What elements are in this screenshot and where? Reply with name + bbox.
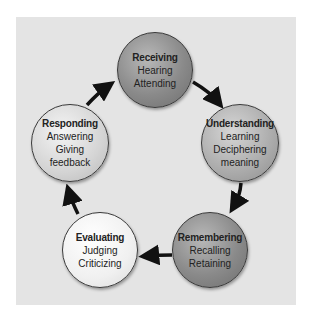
node-line: Attending (134, 77, 176, 90)
node-remembering: Remembering Recalling Retaining (172, 212, 248, 288)
node-title: Understanding (206, 117, 274, 130)
arrow-responding-to-receiving (87, 86, 108, 105)
node-line: Judging (82, 244, 117, 257)
node-receiving: Receiving Hearing Attending (117, 32, 193, 108)
node-line: Criticizing (78, 257, 121, 270)
node-title: Evaluating (76, 231, 125, 244)
node-title: Receiving (132, 51, 177, 64)
node-line: Recalling (189, 244, 230, 257)
node-line: Answering (47, 130, 94, 143)
node-evaluating: Evaluating Judging Criticizing (62, 212, 138, 288)
node-understanding: Understanding Learning Deciphering meani… (201, 104, 279, 182)
node-line: feedback (50, 156, 91, 169)
node-line: Giving (56, 143, 84, 156)
node-title: Responding (42, 117, 98, 130)
node-line: Hearing (137, 64, 172, 77)
arrow-evaluating-to-responding (69, 192, 78, 214)
node-line: Retaining (189, 257, 231, 270)
node-title: Remembering (178, 231, 243, 244)
node-line: meaning (221, 156, 259, 169)
arrow-receiving-to-understanding (193, 82, 218, 102)
node-line: Deciphering (213, 143, 266, 156)
node-responding: Responding Answering Giving feedback (31, 104, 109, 182)
arrow-understanding-to-remembering (234, 183, 241, 206)
node-line: Learning (221, 130, 260, 143)
arrow-remembering-to-evaluating (147, 255, 172, 256)
